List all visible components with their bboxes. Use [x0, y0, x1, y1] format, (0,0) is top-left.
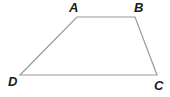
vertex-label-c: C	[154, 78, 164, 93]
vertex-label-d: D	[8, 74, 18, 89]
trapezoid-diagram: A B C D	[0, 0, 170, 97]
vertex-label-a: A	[68, 0, 78, 15]
vertex-label-b: B	[134, 0, 143, 15]
trapezoid-shape	[20, 17, 157, 75]
